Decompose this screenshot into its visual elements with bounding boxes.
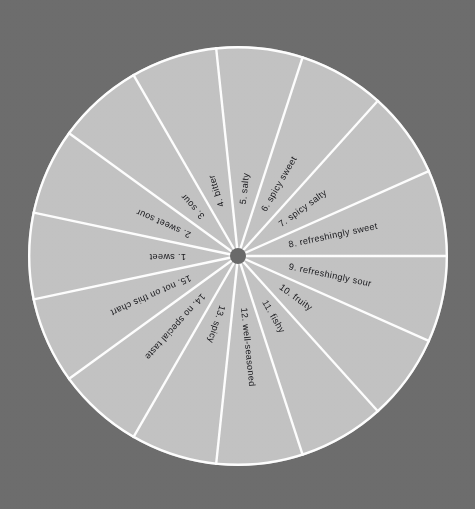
wheel-hub bbox=[230, 248, 246, 264]
pie-wheel-svg: 1. sweet2. sweet sour3. sour4. bitter5. … bbox=[0, 0, 475, 509]
slice-label: 1. sweet bbox=[149, 252, 186, 262]
taste-wheel-chart: 1. sweet2. sweet sour3. sour4. bitter5. … bbox=[0, 0, 475, 509]
